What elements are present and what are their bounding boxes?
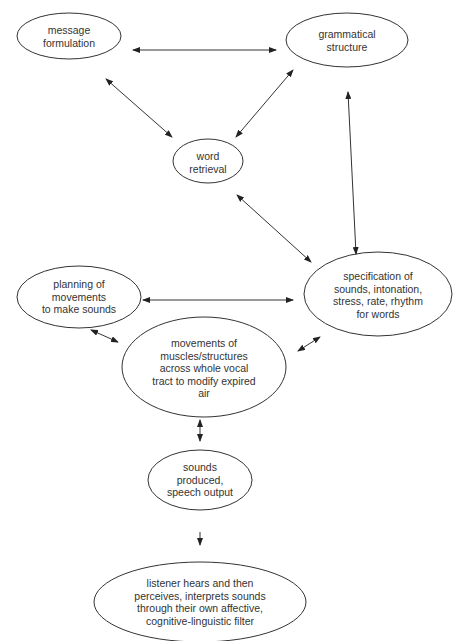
node-message-line: formulation	[43, 36, 95, 49]
node-listener-line: listener hears and then	[147, 577, 254, 590]
edge-planning-movements	[91, 330, 118, 342]
node-word: word retrieval	[189, 150, 226, 175]
node-spec-line: specification of	[343, 270, 412, 283]
node-spec-line: sounds, intonation,	[334, 283, 422, 296]
node-word-line: retrieval	[189, 162, 226, 175]
edge-word-spec	[237, 195, 311, 262]
edge-message-word	[106, 79, 172, 137]
node-planning: planning of movements to make sounds	[42, 278, 116, 316]
node-listener-line: perceives, interprets sounds	[134, 590, 265, 603]
node-word-line: word	[197, 150, 220, 163]
node-sounds-line: sounds	[183, 461, 217, 474]
diagram-canvas	[0, 0, 465, 641]
node-movements-line: movements of	[171, 337, 237, 350]
node-spec: specification of sounds, intonation, str…	[333, 270, 423, 320]
node-planning-line: planning of	[53, 278, 104, 291]
node-grammar-line: grammatical	[318, 28, 375, 41]
node-movements: movements of muscles/structures across w…	[152, 337, 255, 400]
node-movements-line: air	[198, 387, 210, 400]
node-listener-line: through their own affective,	[137, 602, 263, 615]
node-sounds-line: speech output	[167, 486, 233, 499]
node-listener-line: cognitive-linguistic filter	[146, 615, 254, 628]
node-message: message formulation	[43, 24, 95, 49]
node-movements-line: across whole vocal	[160, 362, 249, 375]
node-message-line: message	[48, 24, 91, 37]
node-planning-line: to make sounds	[42, 303, 116, 316]
node-spec-line: stress, rate, rhythm	[333, 295, 423, 308]
node-grammar: grammatical structure	[318, 28, 375, 53]
node-sounds-line: produced,	[177, 474, 224, 487]
node-planning-line: movements	[52, 291, 106, 304]
node-movements-line: tract to modify expired	[152, 374, 255, 387]
edge-grammar-spec	[348, 92, 356, 254]
edge-spec-movements	[298, 337, 320, 351]
node-grammar-line: structure	[327, 40, 368, 53]
edge-grammar-word	[236, 70, 293, 137]
node-movements-line: muscles/structures	[160, 349, 248, 362]
node-sounds: sounds produced, speech output	[167, 461, 233, 499]
node-listener: listener hears and then perceives, inter…	[134, 577, 265, 627]
node-spec-line: for words	[356, 308, 399, 321]
